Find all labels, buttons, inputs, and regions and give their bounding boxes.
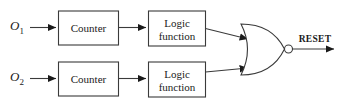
- logic-block-2-label-line1: Logic: [164, 68, 190, 80]
- nor-gate-inversion-bubble: [285, 45, 293, 53]
- signal-row-2: O2 Counter Logic function: [10, 62, 248, 97]
- wire-logic2-to-gate: [206, 68, 249, 72]
- logic-block-2-label-line2: function: [159, 81, 196, 93]
- nor-gate-body: [241, 24, 285, 75]
- signal-row-1: O1 Counter Logic function: [10, 11, 248, 46]
- block-diagram: O1 Counter Logic function O2 Counter Log…: [0, 0, 346, 108]
- reset-output-label: RESET: [299, 34, 332, 44]
- counter-block-2-label: Counter: [71, 73, 107, 85]
- nor-gate: [241, 24, 293, 75]
- reset-output: RESET: [293, 34, 335, 49]
- input-label-o2: O2: [10, 69, 24, 87]
- logic-block-1-label-line2: function: [159, 30, 196, 42]
- logic-block-1-label-line1: Logic: [164, 17, 190, 29]
- input-label-o1: O1: [10, 18, 24, 36]
- counter-block-1-label: Counter: [71, 22, 107, 34]
- wire-logic1-to-gate: [206, 29, 249, 40]
